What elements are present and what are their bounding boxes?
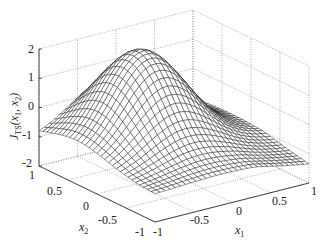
z-tick-0: 0 <box>28 100 34 112</box>
x2-axis-label: x2 <box>79 221 88 238</box>
x2-label-sub: 2 <box>84 227 88 236</box>
x1-tick-neg0.5: -0.5 <box>190 214 209 226</box>
x2-tick-0: 0 <box>83 200 89 212</box>
x1-label-sub: 1 <box>240 230 244 239</box>
x1-axis-label: x1 <box>235 224 244 241</box>
surface-plot <box>0 0 323 248</box>
x1-tick-0.5: 0.5 <box>272 195 287 207</box>
x1-tick-neg1: -1 <box>153 226 163 238</box>
x1-tick-0: 0 <box>236 205 242 217</box>
z-label-args: (x1, x2) <box>7 93 21 126</box>
z-label-sub: TS <box>14 125 23 134</box>
z-tick-2: 2 <box>28 43 34 55</box>
z-label-text: J <box>7 135 21 140</box>
surface-mesh <box>39 49 309 193</box>
x1-tick-1: 1 <box>311 185 317 197</box>
x2-tick-1: 1 <box>29 169 35 181</box>
x2-tick-neg0.5: -0.5 <box>98 214 117 226</box>
z-tick-1: 1 <box>28 71 34 83</box>
x2-tick-neg1: -1 <box>135 226 145 238</box>
x2-tick-0.5: 0.5 <box>47 185 62 197</box>
z-axis-label: JTS(x1, x2) <box>8 93 25 140</box>
